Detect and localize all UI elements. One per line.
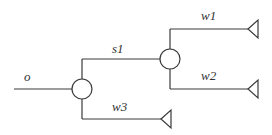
- w3-terminal-icon: [161, 110, 171, 128]
- tree-diagram: o s1 w1 w2 w3: [0, 0, 272, 135]
- w2-label: w2: [201, 68, 217, 83]
- w1-label: w1: [201, 8, 216, 23]
- w3-label: w3: [112, 99, 128, 114]
- w1-terminal-icon: [248, 20, 258, 38]
- split2-node: [160, 49, 180, 69]
- s1-label: s1: [112, 41, 124, 56]
- w2-terminal-icon: [248, 80, 258, 98]
- split1-node: [72, 79, 92, 99]
- input-label: o: [24, 69, 31, 84]
